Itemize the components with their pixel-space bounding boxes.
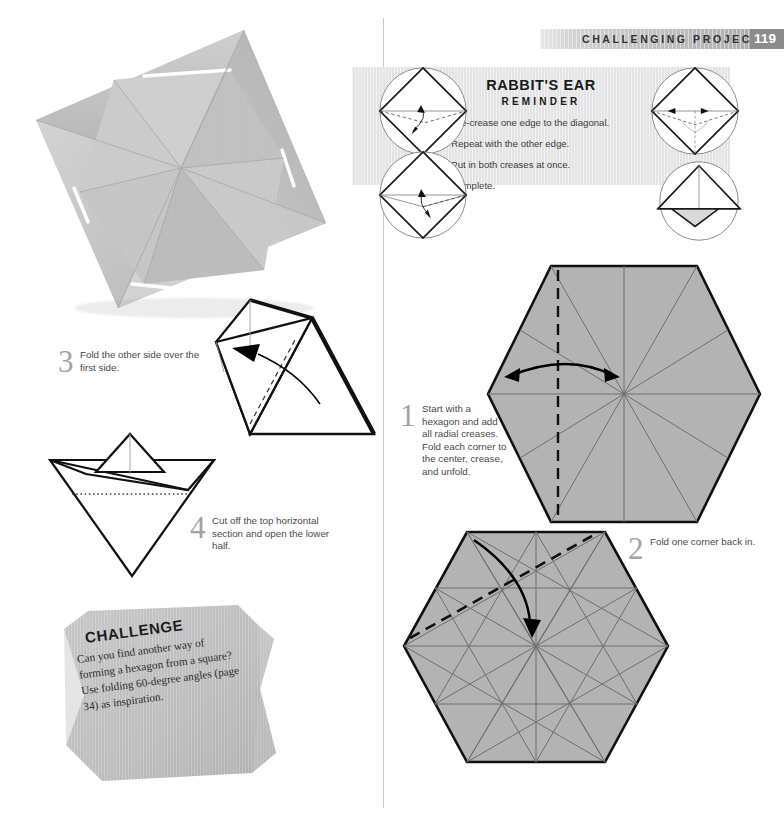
rabbit-ear-diagram-repeat-other-edge	[374, 146, 472, 244]
step-2-number: 2	[628, 533, 644, 564]
challenge-box: CHALLENGE Can you find another way of fo…	[62, 603, 280, 783]
step-2-text: Fold one corner back in.	[650, 536, 756, 549]
step-1-text: Start with a hexagon and add all radial …	[422, 403, 510, 479]
rabbit-ear-diagram-complete	[650, 152, 748, 250]
folded-paper-3d-step-three	[216, 296, 374, 438]
step-3-number: 3	[58, 346, 74, 377]
page-number: 119	[750, 31, 780, 46]
step-2-caption: 2 Fold one corner back in.	[628, 533, 758, 579]
step-3-caption: 3 Fold the other side over the first sid…	[58, 346, 208, 380]
hexagon-with-radial-creases	[478, 258, 770, 530]
rabbit-ear-diagram-both-creases	[646, 62, 744, 160]
step-3-text: Fold the other side over the first side.	[80, 349, 206, 374]
running-head-title: CHALLENGING PROJECTS	[582, 33, 771, 45]
folded-hexagon-photo	[14, 8, 344, 328]
running-header-bar: CHALLENGING PROJECTS 119	[540, 29, 784, 49]
step-4-text: Cut off the top horizontal section and o…	[212, 515, 348, 553]
radial-creases	[488, 266, 760, 522]
step-4-number: 4	[190, 512, 206, 543]
reminder-step-1-text: Pre-crease one edge to the diagonal.	[451, 117, 609, 128]
step-1-caption: 1 Start with a hexagon and add all radia…	[400, 400, 510, 520]
step-4-caption: 4 Cut off the top horizontal section and…	[190, 512, 350, 558]
step-1-number: 1	[400, 400, 416, 431]
